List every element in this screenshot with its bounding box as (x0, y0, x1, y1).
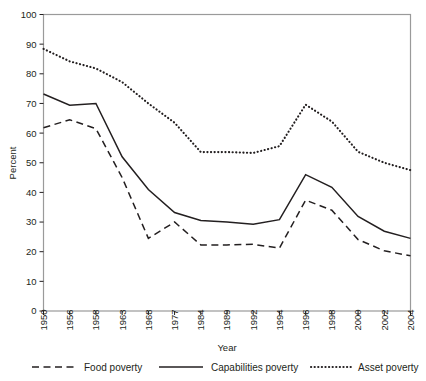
x-tick-label: 1963 (117, 309, 128, 330)
y-tick-label: 50 (26, 157, 37, 168)
x-tick-label: 2004 (405, 309, 416, 330)
x-tick-label: 1950 (38, 309, 49, 330)
x-tick-label: 1992 (248, 309, 259, 330)
x-tick-label: 1958 (90, 309, 101, 330)
y-tick-label: 90 (26, 39, 37, 50)
x-tick-label: 1977 (169, 309, 180, 330)
poverty-trend-figure: 0102030405060708090100 19501956195819631… (0, 0, 426, 381)
legend-label-asset-poverty: Asset poverty (358, 362, 419, 373)
x-tick-label: 1984 (195, 309, 206, 330)
y-tick-label: 100 (21, 9, 37, 20)
y-tick-label: 40 (26, 187, 37, 198)
x-axis-title: Year (217, 342, 236, 353)
x-tick-label: 1968 (143, 309, 154, 330)
y-tick-label: 70 (26, 98, 37, 109)
y-tick-label: 30 (26, 216, 37, 227)
line-chart: 0102030405060708090100 19501956195819631… (0, 0, 426, 381)
legend-label-food-poverty: Food poverty (84, 362, 142, 373)
x-tick-label: 1998 (326, 309, 337, 330)
y-tick-label: 80 (26, 68, 37, 79)
y-axis-title: Percent (7, 146, 18, 179)
y-tick-label: 60 (26, 128, 37, 139)
x-tick-label: 1956 (64, 309, 75, 330)
y-tick-label: 0 (31, 305, 36, 316)
y-tick-label: 10 (26, 276, 37, 287)
x-tick-label: 1996 (300, 309, 311, 330)
y-tick-label: 20 (26, 246, 37, 257)
x-tick-label: 1994 (274, 309, 285, 330)
legend-label-capabilities-poverty: Capabilities poverty (211, 362, 298, 373)
x-tick-label: 1989 (221, 309, 232, 330)
x-tick-label: 2002 (379, 309, 390, 330)
x-tick-label: 2000 (352, 309, 363, 330)
x-axis: 1950195619581963196819771984198919921994… (38, 309, 416, 330)
chart-legend: Food povertyCapabilities povertyAsset po… (32, 362, 419, 373)
